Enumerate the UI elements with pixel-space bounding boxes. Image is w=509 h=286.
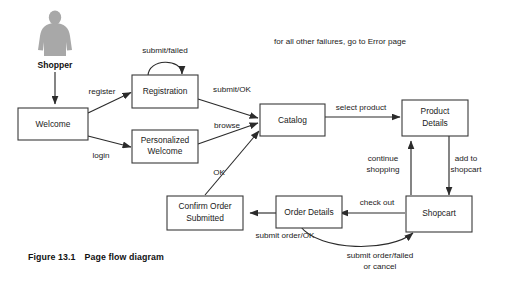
node-catalog[interactable]: Catalog (260, 104, 325, 136)
edge-label-check-out: check out (360, 198, 395, 207)
edge-welcome-personalized: login (88, 136, 131, 160)
edge-shopcart-orderdetails: check out (340, 198, 405, 213)
edge-line (300, 226, 413, 246)
node-shopcart[interactable]: Shopcart (406, 196, 472, 232)
node-personalized-welcome[interactable]: Personalized Welcome (132, 130, 198, 163)
actor-shopper-label: Shopper (38, 60, 74, 70)
edge-shopcart-product: continue shopping (367, 141, 411, 195)
edge-label-submit-failed: submit/failed (142, 46, 187, 55)
edge-line (88, 136, 131, 147)
person-icon-head (49, 11, 61, 25)
edge-catalog-product: select product (325, 103, 400, 117)
person-icon-body (38, 23, 72, 56)
edge-orderdetails-shopcart: submit order/failed or cancel (300, 226, 413, 271)
node-label-registration: Registration (143, 86, 188, 96)
actor-shopper: Shopper (38, 11, 74, 71)
edge-label-submit-ok: submit/OK (213, 85, 251, 94)
edge-confirm-catalog: OK (205, 131, 259, 195)
node-welcome[interactable]: Welcome (18, 108, 88, 140)
node-label-catalog: Catalog (278, 115, 307, 125)
edge-label-register: register (89, 87, 116, 96)
edge-registration-catalog: submit/OK (198, 85, 258, 118)
edge-label-add-to-shopcart-line1: add to (455, 154, 478, 163)
node-label-order-details: Order Details (284, 207, 333, 217)
node-label-product-line1: Product (421, 106, 451, 116)
node-registration[interactable]: Registration (132, 75, 198, 108)
note-error-page: for all other failures, go to Error page (274, 37, 406, 46)
edge-label-add-to-shopcart-line2: shopcart (450, 165, 482, 174)
edge-personalized-catalog: browse (198, 121, 258, 144)
node-label-confirm-line1: Confirm Order (178, 201, 231, 211)
edge-registration-self: submit/failed (142, 46, 187, 76)
node-label-personalized-line1: Personalized (141, 135, 190, 145)
edge-product-shopcart: add to shopcart (449, 136, 482, 195)
node-order-details[interactable]: Order Details (276, 196, 342, 228)
edge-line (148, 62, 182, 76)
edge-welcome-registration: register (88, 87, 131, 113)
node-label-welcome: Welcome (36, 119, 71, 129)
figure-caption-title: Page flow diagram (85, 252, 164, 262)
edge-label-login: login (92, 151, 109, 160)
node-label-confirm-line2: Submitted (186, 213, 224, 223)
page-flow-diagram: Shopper register login submit/failed sub… (0, 0, 509, 286)
edge-label-continue-shopping-line1: continue (368, 154, 399, 163)
node-label-product-line2: Details (422, 118, 448, 128)
edge-label-ok: OK (213, 168, 225, 177)
edge-label-submit-order-failed-line1: submit order/failed (347, 251, 414, 260)
node-label-shopcart: Shopcart (422, 208, 456, 218)
edge-line (198, 99, 258, 118)
node-product-details[interactable]: Product Details (402, 100, 468, 136)
figure-caption: Figure 13.1Page flow diagram (28, 252, 164, 262)
edge-label-submit-order-failed-line2: or cancel (364, 262, 397, 271)
edge-label-select-product: select product (336, 103, 387, 112)
node-confirm-order-submitted[interactable]: Confirm Order Submitted (167, 196, 243, 230)
edge-label-continue-shopping-line2: shopping (367, 165, 400, 174)
edge-line (205, 131, 259, 195)
page-flow-figure: Shopper register login submit/failed sub… (0, 0, 509, 286)
figure-caption-number: Figure 13.1 (28, 252, 76, 262)
node-label-personalized-line2: Welcome (148, 146, 183, 156)
edge-label-browse: browse (214, 121, 241, 130)
